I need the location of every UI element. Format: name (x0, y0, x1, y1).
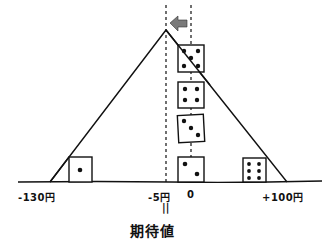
tick-label-plus-100: +100円 (262, 189, 304, 204)
die-six-icon (243, 158, 266, 182)
expected-value-diagram: -130円 -5円 0 +100円 || 期待値 (0, 0, 335, 250)
tick-label-minus-130: -130円 (18, 189, 56, 204)
die-four-icon (178, 82, 204, 108)
baseline (18, 181, 322, 182)
die-three-icon (177, 114, 204, 142)
expected-value-label: 期待値 (130, 220, 175, 240)
die-two-icon (178, 157, 204, 182)
arrow-left-icon (170, 16, 187, 31)
equals-mark: || (162, 202, 169, 213)
die-one-icon (50, 157, 92, 182)
tick-label-zero: 0 (187, 189, 194, 200)
